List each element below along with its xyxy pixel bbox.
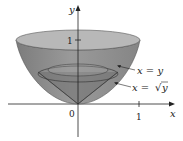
curve-label-x-eq-y: x = y [137,65,163,76]
svg-text:√: √ [155,82,162,93]
x-axis-label: x [170,108,176,119]
svg-text:y: y [161,82,168,93]
x-axis-arrow-icon [169,102,175,107]
y-tick-label: 1 [67,36,73,46]
y-axis-label: y [68,4,75,15]
x-tick-label: 1 [136,112,142,122]
x-axis [8,102,175,107]
origin-label: 0 [69,109,75,119]
curve-label-x-eq-sqrt-y: x = √ y [132,82,168,93]
y-axis-arrow-icon [76,5,81,11]
solid-of-revolution-diagram: y x 0 1 1 x = y x = √ y [0,0,183,141]
svg-text:x =: x = [132,82,149,93]
